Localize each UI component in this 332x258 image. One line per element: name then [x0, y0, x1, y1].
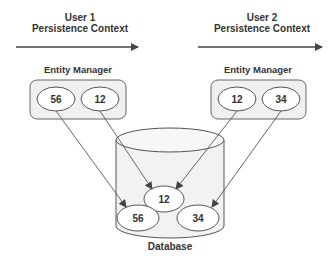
user2-title: User 2	[247, 12, 278, 23]
entity-manager-right-label: Entity Manager	[224, 64, 292, 75]
user1-subtitle: Persistence Context	[32, 23, 129, 34]
database-label: Database	[148, 241, 193, 252]
entity-manager-left-label: Entity Manager	[44, 64, 112, 75]
em-left-entity-56-label: 56	[50, 94, 62, 105]
db-entity-56-label: 56	[132, 213, 144, 224]
persistence-context-diagram: User 1 Persistence Context User 2 Persis…	[0, 0, 332, 258]
db-entity-34-label: 34	[192, 213, 204, 224]
em-right-entity-34-label: 34	[275, 94, 287, 105]
user2-subtitle: Persistence Context	[214, 23, 311, 34]
db-entity-12-label: 12	[158, 194, 170, 205]
em-left-entity-12-label: 12	[94, 94, 106, 105]
user1-title: User 1	[65, 12, 96, 23]
em-right-entity-12-label: 12	[231, 94, 243, 105]
